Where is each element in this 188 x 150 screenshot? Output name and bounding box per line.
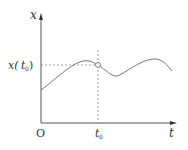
x-axis-label: t [169,126,174,140]
xt0-label: x( t 0 ) [8,59,33,72]
svg-text:): ) [29,59,33,72]
y-axis-arrow-icon [39,13,43,20]
function-curve [41,59,172,90]
x-axis-arrow-icon [170,121,177,125]
function-plot: x t O t 0 x( t 0 ) [0,0,188,150]
y-axis-label: x [30,8,37,22]
svg-text:0: 0 [99,133,103,140]
svg-text:x(: x( [8,59,19,72]
origin-label: O [36,127,45,140]
point-marker [96,63,101,68]
t0-label: t 0 [95,127,103,140]
